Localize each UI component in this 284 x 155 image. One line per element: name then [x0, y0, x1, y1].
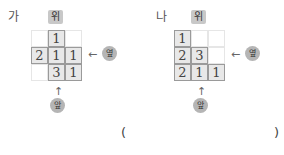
top-view-label: 위 — [48, 10, 63, 24]
left-arrow-icon: ← — [88, 49, 97, 60]
grid-cell: 1 — [65, 64, 82, 81]
top-view-grid: 1 2 3 2 1 1 — [174, 30, 225, 81]
front-view-label: 앞 — [193, 98, 208, 113]
top-view-grid: 1 2 1 1 3 1 — [31, 30, 82, 81]
grid-cell — [65, 30, 82, 47]
grid-cell — [31, 64, 48, 81]
grid-cell: 3 — [191, 47, 208, 64]
grid-cell: 1 — [48, 30, 65, 47]
side-view-label: 옆 — [102, 46, 117, 61]
side-view-label: 옆 — [245, 46, 260, 61]
grid-cell: 2 — [174, 64, 191, 81]
open-paren: ( — [121, 125, 126, 140]
up-arrow-icon: ↑ — [197, 86, 206, 97]
up-arrow-icon: ↑ — [54, 86, 63, 97]
grid-cell: 2 — [174, 47, 191, 64]
grid-cell: 1 — [65, 47, 82, 64]
grid-cell — [31, 30, 48, 47]
grid-cell: 1 — [191, 64, 208, 81]
problem-label: 나 — [156, 7, 167, 24]
grid-cell: 3 — [48, 64, 65, 81]
front-view-label: 앞 — [50, 98, 65, 113]
grid-cell: 1 — [208, 64, 225, 81]
grid-cell — [191, 30, 208, 47]
grid-cell — [208, 30, 225, 47]
answer-value[interactable] — [132, 125, 272, 141]
grid-cell: 2 — [31, 47, 48, 64]
grid-cell — [208, 47, 225, 64]
grid-cell: 1 — [48, 47, 65, 64]
close-paren: ) — [274, 125, 279, 140]
problem-label: 가 — [8, 7, 19, 24]
top-view-label: 위 — [191, 10, 206, 24]
grid-cell: 1 — [174, 30, 191, 47]
left-arrow-icon: ← — [231, 49, 240, 60]
